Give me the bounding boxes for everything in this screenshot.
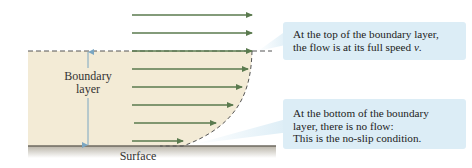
bottom-callout-line1: At the bottom of the boundary	[293, 107, 456, 120]
top-callout-line1: At the top of the boundary layer,	[293, 28, 456, 41]
top-callout-line2-text: the flow is at its full speed	[293, 41, 414, 53]
boundary-layer-label-line2: layer	[62, 83, 114, 96]
bottom-callout-line2: layer, there is no flow:	[293, 120, 456, 133]
boundary-layer-region	[28, 51, 252, 146]
boundary-layer-diagram: Boundary layer Surface At the top of the…	[0, 0, 472, 168]
bottom-callout-line3: This is the no-slip condition.	[293, 132, 456, 145]
top-callout-line2: the flow is at its full speed v.	[293, 41, 456, 54]
bottom-callout: At the bottom of the boundary layer, the…	[283, 99, 466, 149]
boundary-layer-label: Boundary layer	[62, 70, 114, 96]
top-callout-period: .	[419, 41, 422, 53]
top-callout: At the top of the boundary layer, the fl…	[283, 22, 466, 60]
surface-label: Surface	[108, 150, 168, 163]
